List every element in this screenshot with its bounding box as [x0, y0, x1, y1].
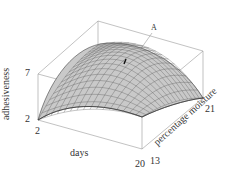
- z-tick-bottom: 2: [25, 114, 30, 124]
- annotation-label: A: [151, 24, 157, 32]
- surface-plot: [0, 0, 229, 184]
- x-tick-left: 2: [35, 126, 40, 136]
- y-tick-back: 21: [205, 104, 215, 114]
- surface: [38, 42, 203, 120]
- x-axis-label: days: [70, 148, 88, 158]
- z-tick-top: 7: [25, 68, 30, 78]
- x-tick-right: 20: [135, 159, 145, 169]
- y-tick-front: 13: [150, 156, 160, 166]
- z-axis-label: adhesiveness: [1, 68, 11, 120]
